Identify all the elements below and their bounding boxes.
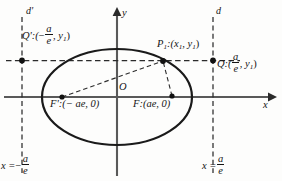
x-axis-label: x — [263, 100, 268, 111]
q-name: Q — [217, 58, 225, 69]
focal-radius-right-segment — [163, 61, 172, 96]
q-prime-close: ) — [67, 30, 71, 41]
focus-left-name: F' — [50, 98, 59, 109]
left-directrix-equation: x =−ae — [1, 155, 30, 178]
focal-radius-left-segment — [62, 61, 163, 97]
focus-left-label: F':(− ae, 0) — [50, 99, 99, 110]
focus-right-label: F:(ae, 0) — [133, 99, 170, 110]
ellipse-directrix-figure: d' d Q':(−ae, y1) P1:(x1, y1) Q:(ae, y1)… — [0, 0, 282, 181]
fraction-denominator: e — [45, 35, 52, 46]
right-directrix-tag: d — [216, 6, 221, 16]
focus-right-text: :(ae, 0) — [139, 98, 170, 109]
point-q-marker — [210, 58, 216, 64]
fraction-numerator: a — [232, 52, 239, 64]
q-prime-minus: − — [39, 30, 45, 41]
focus-left-text: :(− ae, 0) — [59, 98, 100, 109]
point-p1-label: P1:(x1, y1) — [157, 39, 199, 51]
origin-label: O — [119, 82, 127, 93]
q-separator: :( — [225, 58, 232, 69]
q-close: ) — [253, 58, 257, 69]
fraction-denominator: e — [232, 63, 239, 74]
q-prime-name: Q' — [22, 30, 32, 41]
p1-close: ) — [196, 38, 200, 49]
fraction-denominator: e — [217, 165, 224, 176]
fraction-denominator: e — [22, 165, 29, 176]
point-p1-marker — [160, 58, 166, 64]
point-q-prime-marker — [19, 58, 25, 64]
fraction-numerator: a — [22, 154, 29, 166]
left-directrix-minus: − — [15, 160, 21, 171]
y-axis-label: y — [122, 8, 127, 19]
right-directrix-equation-lead: x = — [202, 160, 216, 171]
a-over-e-fraction: ae — [22, 154, 29, 177]
fraction-numerator: a — [217, 154, 224, 166]
left-directrix-tag: d' — [26, 6, 33, 16]
right-directrix-equation: x =ae — [202, 155, 225, 178]
q-prime-separator: :( — [32, 30, 39, 41]
point-q-prime-label: Q':(−ae, y1) — [22, 25, 70, 48]
point-q-label: Q:(ae, y1) — [217, 53, 257, 76]
p1-separator: :( — [167, 38, 174, 49]
a-over-e-fraction: ae — [45, 24, 52, 47]
a-over-e-fraction: ae — [232, 52, 239, 75]
left-directrix-equation-lead: x = — [1, 160, 15, 171]
fraction-numerator: a — [45, 24, 52, 36]
a-over-e-fraction: ae — [217, 154, 224, 177]
